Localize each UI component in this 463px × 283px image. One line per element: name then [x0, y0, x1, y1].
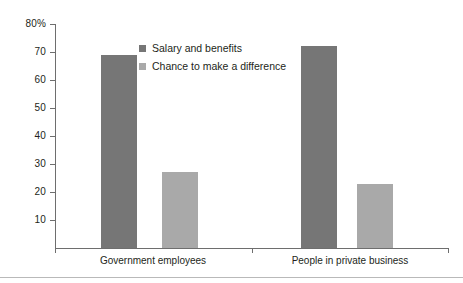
y-axis-tick-label: 50: [0, 103, 46, 113]
legend-swatch-icon-difference: [139, 63, 146, 70]
x-axis-category-label: People in private business: [250, 255, 450, 267]
y-axis-tick-label: 20: [0, 187, 46, 197]
legend-label-difference: Chance to make a difference: [152, 61, 286, 72]
bar-priv-salary: [301, 46, 337, 248]
y-axis-tick-label: 10: [0, 215, 46, 225]
y-axis-tick-label: 30: [0, 159, 46, 169]
y-axis-tick: [50, 24, 55, 25]
y-axis-tick-label: 70: [0, 47, 46, 57]
x-axis-category-label: Government employees: [53, 255, 253, 267]
chart-legend: Salary and benefits Chance to make a dif…: [139, 41, 286, 77]
y-axis-tick: [50, 80, 55, 81]
y-axis-tick: [50, 192, 55, 193]
footer-divider: [0, 277, 463, 278]
bar-priv-difference: [357, 184, 393, 248]
y-axis-tick-label: 80%: [0, 19, 46, 29]
legend-label-salary: Salary and benefits: [152, 43, 242, 54]
bar-gov-salary: [101, 55, 137, 248]
y-axis-tick: [50, 52, 55, 53]
legend-item-chance-to-make-a-difference: Chance to make a difference: [139, 59, 286, 74]
y-axis-tick: [50, 136, 55, 137]
y-axis-tick: [50, 108, 55, 109]
y-axis-tick-label: 60: [0, 75, 46, 85]
legend-item-salary-and-benefits: Salary and benefits: [139, 41, 286, 56]
x-axis-tick: [448, 248, 449, 253]
y-axis-tick: [50, 164, 55, 165]
bar-gov-difference: [162, 172, 198, 248]
x-axis-tick: [252, 248, 253, 253]
legend-swatch-icon-salary: [139, 45, 146, 52]
y-axis-tick-label: 40: [0, 131, 46, 141]
y-axis-line: [55, 24, 56, 248]
bar-chart: 80%70605040302010 Government employeesPe…: [0, 0, 463, 283]
y-axis-tick: [50, 220, 55, 221]
x-axis-tick: [55, 248, 56, 253]
